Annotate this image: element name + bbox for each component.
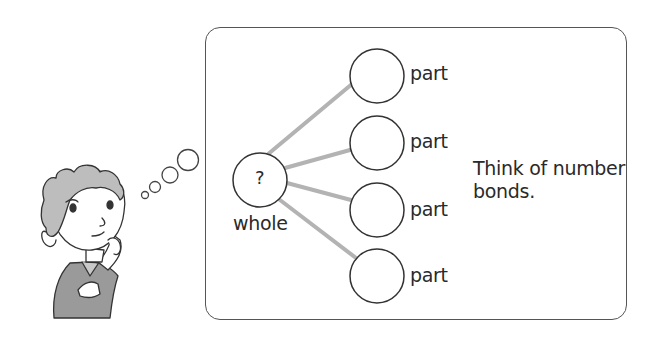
hint-text: Think of number bonds.	[473, 157, 625, 203]
part-label-4: part	[410, 266, 448, 285]
part-label-3: part	[410, 200, 448, 219]
hint-line-1: Think of number	[473, 157, 625, 180]
thought-bubble-icon	[142, 150, 199, 199]
part-label-2: part	[410, 132, 448, 151]
thinking-boy-illustration	[41, 165, 125, 318]
part-label-1: part	[410, 64, 448, 83]
whole-symbol: ?	[255, 169, 264, 187]
hint-line-2: bonds.	[473, 180, 625, 203]
whole-label: whole	[233, 214, 288, 233]
